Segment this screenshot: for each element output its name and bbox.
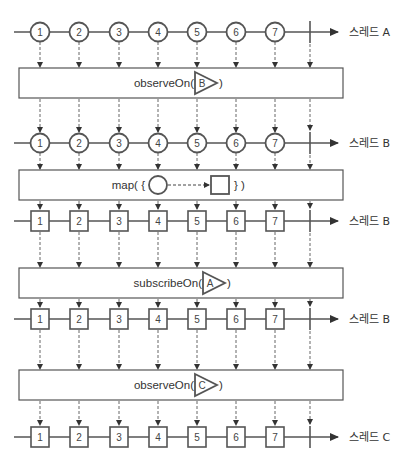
marble-square: 4 [149,427,167,447]
marble-value: 6 [233,314,239,325]
marble-square: 6 [227,427,245,447]
operator-name: subscribeOn( [134,277,203,289]
thread-label: 스레드 A [349,26,390,39]
marble-square: 1 [31,309,49,329]
marble-circle: 7 [266,23,285,42]
timeline-1: 1234567스레드 A [14,21,390,43]
scheduler-label: C [198,380,205,391]
marble-value: 6 [233,432,239,443]
marble-square: 7 [266,309,284,329]
marble-square: 4 [149,211,167,231]
marble-value: 3 [116,432,122,443]
marble-circle: 2 [70,23,89,42]
marble-value: 3 [116,216,122,227]
marble-square: 1 [31,211,49,231]
operator-name: observeOn( [134,77,194,89]
marble-value: 6 [233,138,239,149]
marble-square: 5 [188,427,206,447]
marble-circle: 4 [149,134,168,153]
thread-label: 스레드 B [349,215,390,228]
timeline-3: 1234567스레드 B [14,210,390,232]
marble-circle: 1 [31,134,50,153]
marble-value: 3 [116,27,122,38]
marble-square: 5 [188,211,206,231]
marble-value: 4 [155,432,161,443]
thread-label: 스레드 B [349,313,390,326]
operator-box-2: map( {} ) [19,170,343,200]
marble-value: 1 [37,216,43,227]
marble-value: 2 [76,216,82,227]
marble-value: 1 [37,432,43,443]
marble-square: 2 [70,211,88,231]
operator-close: } ) [234,179,245,191]
operator-box-4: observeOn(C) [19,370,343,400]
marble-square: 1 [31,427,49,447]
marble-value: 6 [233,27,239,38]
marble-value: 2 [76,27,82,38]
marble-circle: 5 [188,134,207,153]
marble-value: 2 [76,138,82,149]
marble-value: 7 [272,216,278,227]
marble-circle: 1 [31,23,50,42]
marble-value: 4 [155,314,161,325]
marble-value: 5 [194,314,200,325]
marble-circle: 5 [188,23,207,42]
marble-circle: 3 [110,134,129,153]
marble-value: 1 [37,314,43,325]
marble-value: 3 [116,138,122,149]
marble-value: 5 [194,216,200,227]
marble-diagram: observeOn(B)map( {} )subscribeOn(A)obser… [0,0,405,465]
marble-value: 7 [272,27,278,38]
marble-value: 4 [155,216,161,227]
marble-value: 4 [155,27,161,38]
marble-circle: 6 [227,23,246,42]
timeline-5: 1234567스레드 C [14,426,390,448]
marble-value: 1 [37,138,43,149]
marble-value: 1 [37,27,43,38]
thread-label: 스레드 B [349,137,390,150]
marble-square: 3 [110,427,128,447]
marble-square: 7 [266,211,284,231]
marble-square: 7 [266,427,284,447]
scheduler-label: B [199,78,206,89]
timeline-2: 1234567스레드 B [14,132,390,154]
operator-box-3: subscribeOn(A) [19,268,343,298]
marble-square: 6 [227,211,245,231]
marble-value: 2 [76,314,82,325]
operator-close-paren: ) [219,379,223,391]
marble-value: 5 [194,432,200,443]
marble-circle: 4 [149,23,168,42]
marble-value: 7 [272,314,278,325]
operator-name: map( { [112,179,145,191]
marble-square: 5 [188,309,206,329]
marble-square: 3 [110,211,128,231]
marble-circle: 6 [227,134,246,153]
timeline-4: 1234567스레드 B [14,308,390,330]
scheduler-label: A [207,278,214,289]
marble-square: 6 [227,309,245,329]
marble-value: 6 [233,216,239,227]
marble-value: 2 [76,432,82,443]
marble-value: 7 [272,432,278,443]
marble-value: 5 [194,27,200,38]
marble-circle: 2 [70,134,89,153]
operator-close-paren: ) [219,77,223,89]
marble-value: 4 [155,138,161,149]
operator-close-paren: ) [227,277,231,289]
operators: observeOn(B)map( {} )subscribeOn(A)obser… [19,68,343,400]
marble-square: 3 [110,309,128,329]
marble-circle: 3 [110,23,129,42]
marble-square: 2 [70,427,88,447]
operator-name: observeOn( [134,379,194,391]
marble-value: 7 [272,138,278,149]
marble-value: 3 [116,314,122,325]
thread-label: 스레드 C [349,431,390,444]
marble-circle: 7 [266,134,285,153]
operator-box-1: observeOn(B) [19,68,343,98]
connector-arrows [40,42,310,425]
marble-square: 4 [149,309,167,329]
marble-square: 2 [70,309,88,329]
marble-value: 5 [194,138,200,149]
